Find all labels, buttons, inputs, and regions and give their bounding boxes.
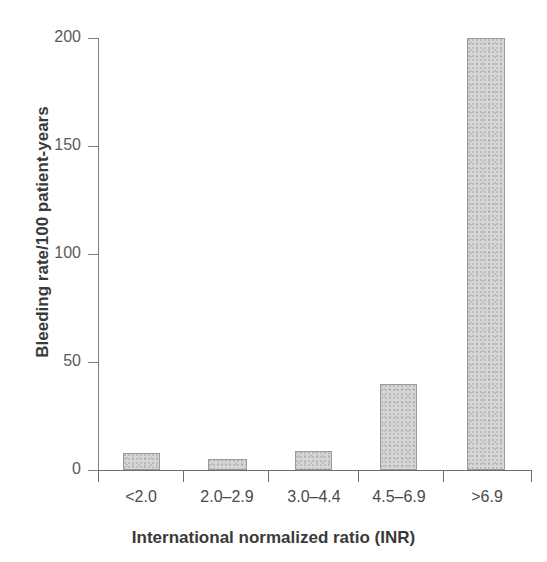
x-tick-1 xyxy=(183,471,184,482)
y-tick-label-100: 100 xyxy=(54,244,81,262)
y-tick-200: 200 xyxy=(88,38,98,39)
x-tick-4 xyxy=(443,471,444,482)
y-tick-0: 0 xyxy=(88,470,98,471)
y-tick-label-150: 150 xyxy=(54,136,81,154)
bar-chart-figure: Bleeding rate/100 patient-years 0 50 100… xyxy=(0,0,547,562)
y-tick-100: 100 xyxy=(88,254,98,255)
x-tick-3 xyxy=(358,471,359,482)
x-tick-2 xyxy=(268,471,269,482)
x-tick-0 xyxy=(98,471,99,482)
y-tick-label-0: 0 xyxy=(72,460,81,478)
bar-2-0-2-9[interactable] xyxy=(208,459,247,470)
x-category-label-2: 3.0–4.4 xyxy=(287,488,340,506)
y-axis-line xyxy=(98,38,99,470)
bar-lt-2-0[interactable] xyxy=(123,453,160,470)
y-axis-title: Bleeding rate/100 patient-years xyxy=(33,32,53,432)
bar-gt-6-9[interactable] xyxy=(467,38,505,470)
y-tick-label-200: 200 xyxy=(54,28,81,46)
x-category-label-0: <2.0 xyxy=(125,488,157,506)
x-category-label-3: 4.5–6.9 xyxy=(372,488,425,506)
y-tick-label-50: 50 xyxy=(63,352,81,370)
bar-4-5-6-9[interactable] xyxy=(380,384,417,470)
x-category-label-4: >6.9 xyxy=(471,488,503,506)
x-category-label-1: 2.0–2.9 xyxy=(200,488,253,506)
bar-3-0-4-4[interactable] xyxy=(295,451,332,470)
x-axis-title: International normalized ratio (INR) xyxy=(0,528,547,548)
plot-area: 0 50 100 150 200 <2.0 2.0–2.9 3.0–4.4 4.… xyxy=(98,30,532,470)
y-tick-150: 150 xyxy=(88,146,98,147)
x-axis-line xyxy=(98,470,532,471)
y-tick-50: 50 xyxy=(88,362,98,363)
x-tick-5 xyxy=(531,471,532,482)
